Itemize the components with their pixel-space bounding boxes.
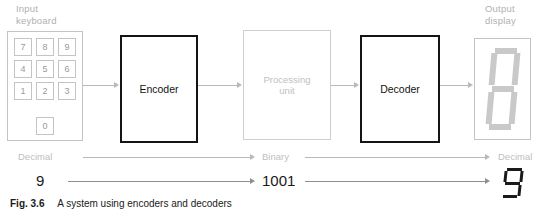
keypad-key-2[interactable]: 2 [36, 82, 54, 100]
segment-f [489, 53, 498, 85]
arrowhead-processing-decoder [354, 82, 359, 88]
figure-caption: Fig. 3.6 A system using encoders and dec… [10, 198, 232, 209]
figure-canvas: Input keyboard Output display 7 8 9 4 5 … [0, 0, 560, 210]
segment-d [489, 124, 511, 130]
segment-c [517, 185, 521, 196]
keypad-grid: 7 8 9 4 5 6 1 2 3 [14, 38, 76, 113]
connector-encoder-processing [198, 85, 237, 86]
output-seven-segment-nine [503, 168, 525, 198]
signal-arrow-1 [83, 157, 250, 158]
segment-e [486, 92, 495, 124]
figure-caption-text: A system using encoders and decoders [57, 198, 232, 209]
signal-label-input: Decimal [18, 151, 52, 162]
encoder-block: Encoder [120, 35, 198, 143]
keypad-key-0[interactable]: 0 [36, 117, 54, 135]
connector-processing-decoder [331, 85, 354, 86]
keypad-key-8[interactable]: 8 [36, 38, 54, 56]
keypad-key-3[interactable]: 3 [58, 82, 76, 100]
seven-segment-display [489, 48, 519, 130]
decoder-block: Decoder [360, 35, 440, 143]
figure-caption-label: Fig. 3.6 [10, 198, 44, 209]
connector-keypad-encoder [83, 85, 114, 86]
keypad-key-6[interactable]: 6 [58, 60, 76, 78]
arrowhead-encoder-processing [237, 82, 242, 88]
value-arrowhead-1 [250, 178, 255, 184]
signal-arrowhead-1 [250, 154, 255, 160]
connector-decoder-display [440, 85, 468, 86]
signal-arrow-2 [305, 157, 485, 158]
signal-arrowhead-2 [485, 154, 490, 160]
input-keyboard-label: Input keyboard [16, 3, 57, 26]
value-input: 9 [36, 172, 44, 189]
arrowhead-keypad-encoder [114, 82, 119, 88]
keypad-key-1[interactable]: 1 [14, 82, 32, 100]
segment-b [519, 171, 523, 182]
keypad-key-7[interactable]: 7 [14, 38, 32, 56]
arrowhead-decoder-display [468, 82, 473, 88]
processing-unit-block: Processing unit [243, 30, 331, 140]
value-arrow-2 [305, 181, 485, 182]
signal-label-middle: Binary [262, 151, 289, 162]
segment-f [503, 171, 507, 182]
value-arrow-1 [68, 181, 250, 182]
keypad-key-4[interactable]: 4 [14, 60, 32, 78]
value-middle: 1001 [262, 172, 295, 189]
keypad-key-5[interactable]: 5 [36, 60, 54, 78]
output-display-label: Output display [485, 3, 516, 26]
value-arrowhead-2 [485, 178, 490, 184]
segment-d [503, 195, 517, 198]
keypad-key-9[interactable]: 9 [58, 38, 76, 56]
segment-c [509, 92, 518, 124]
signal-label-output: Decimal [498, 151, 532, 162]
